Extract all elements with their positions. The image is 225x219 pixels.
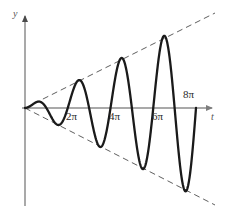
envelope-group <box>25 13 215 205</box>
x-tick-label-2pi: 2π <box>66 111 77 122</box>
x-axis-label: t <box>211 112 214 122</box>
x-tick-label-8pi: 8π <box>183 89 194 100</box>
x-tick-label-6pi: 6π <box>152 111 163 122</box>
x-tick-label-4pi: 4π <box>109 111 120 122</box>
y-axis-label: y <box>13 9 17 19</box>
chart-figure: 2π 4π 6π 8π y t <box>0 0 225 219</box>
